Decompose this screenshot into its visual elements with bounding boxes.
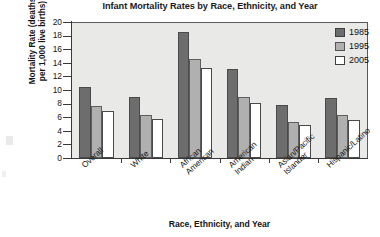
y-tick-label: 14 [44, 59, 62, 67]
x-tick [220, 158, 221, 163]
y-tick-label: 0 [44, 154, 62, 162]
bar [276, 105, 288, 158]
chart-title: Infant Mortality Rates by Race, Ethnicit… [60, 1, 360, 11]
legend-swatch [335, 56, 345, 65]
y-tick-label: 4 [44, 127, 62, 135]
y-tick-label: 18 [44, 31, 62, 39]
y-tick [63, 144, 71, 145]
legend-item: 2005 [335, 55, 369, 66]
x-tick [170, 158, 171, 163]
chart-figure: Infant Mortality Rates by Race, Ethnicit… [0, 0, 380, 237]
legend-item: 1995 [335, 41, 369, 52]
bar [79, 87, 91, 158]
x-tick [318, 158, 319, 163]
scan-artifact [2, 171, 6, 177]
y-tick-label: 2 [44, 140, 62, 148]
y-tick [63, 131, 71, 132]
y-tick [63, 49, 71, 50]
y-tick-label: 20 [44, 18, 62, 26]
x-tick [269, 158, 270, 163]
y-tick-label: 12 [44, 72, 62, 80]
plot-area [72, 22, 368, 159]
y-tick-label: 8 [44, 99, 62, 107]
y-tick [63, 117, 71, 118]
chart-legend: 198519952005 [333, 25, 371, 68]
y-axis-line [71, 21, 72, 159]
scan-artifact [6, 136, 13, 145]
legend-label: 1995 [349, 42, 369, 51]
y-tick [63, 63, 71, 64]
legend-label: 1985 [349, 28, 369, 37]
bar [227, 69, 239, 158]
x-tick [121, 158, 122, 163]
x-axis-title: Race, Ethnicity, and Year [72, 219, 367, 229]
y-tick [63, 104, 71, 105]
legend-swatch [335, 28, 345, 37]
bar [178, 32, 190, 158]
y-tick [63, 158, 71, 159]
y-tick [63, 22, 71, 23]
y-tick-label: 6 [44, 113, 62, 121]
y-tick-label: 10 [44, 86, 62, 94]
y-tick [63, 90, 71, 91]
y-tick [63, 76, 71, 77]
legend-swatch [335, 42, 345, 51]
bar [152, 119, 164, 158]
bar [129, 97, 141, 158]
bar [325, 98, 337, 158]
y-tick-label: 16 [44, 45, 62, 53]
legend-label: 2005 [349, 56, 369, 65]
y-tick [63, 36, 71, 37]
legend-item: 1985 [335, 27, 369, 38]
